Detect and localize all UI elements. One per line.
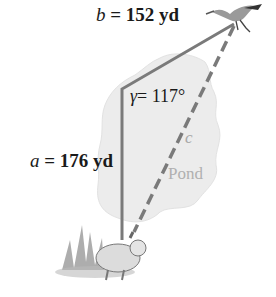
side-b-label: b = 152 yd [96,4,179,26]
angle-gamma-label: γ= 117° [130,86,185,107]
side-c-label: c [185,128,193,148]
side-a-var: a [30,150,40,171]
pond-shape [98,54,220,222]
side-b-value: = 152 yd [106,4,180,25]
side-b-var: b [96,4,106,25]
triangle-diagram [0,0,276,297]
side-a-label: a = 176 yd [30,150,113,172]
side-a-value: = 176 yd [40,150,114,171]
pond-label: Pond [168,164,203,184]
angle-value: = 117° [137,86,185,106]
